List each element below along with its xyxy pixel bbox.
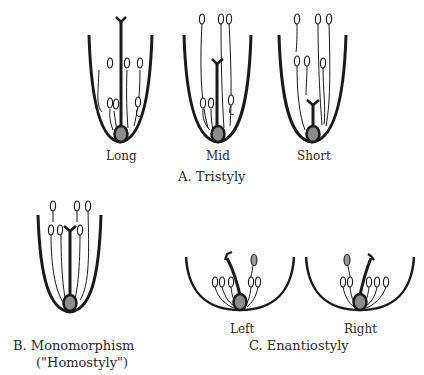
label-mid: Mid [206, 149, 230, 163]
flower-short [279, 14, 346, 142]
caption-tristyly: A. Tristyly [178, 169, 245, 184]
label-right: Right [344, 322, 377, 336]
flower-monomorphism [38, 201, 101, 312]
caption-enantiostyly: C. Enantiostyly [249, 338, 349, 353]
caption-monomorphism: B. Monomorphism [13, 338, 134, 353]
flower-right [306, 254, 414, 310]
caption-homostyly: ("Homostyly") [36, 355, 128, 370]
flower-long [89, 17, 152, 142]
label-long: Long [106, 149, 137, 163]
flower-mid [184, 14, 251, 142]
label-short: Short [297, 149, 331, 163]
flower-left [186, 252, 294, 310]
diagram-canvas [0, 0, 424, 375]
label-left: Left [230, 322, 254, 336]
